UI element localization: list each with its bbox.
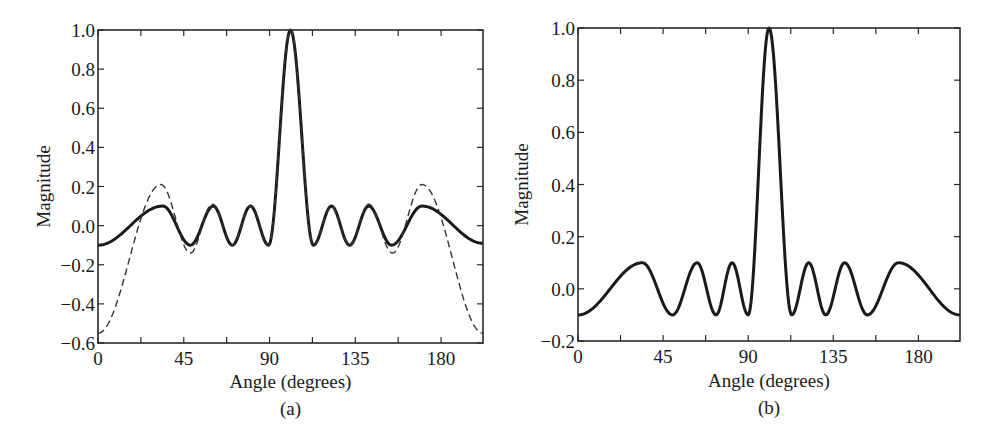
series-line-solid <box>578 28 960 315</box>
caption-b: (b) <box>758 397 780 419</box>
y-tick-label: 0.8 <box>551 70 575 91</box>
y-tick-label: 1.0 <box>551 18 575 39</box>
y-tick-label: 0.6 <box>551 122 575 143</box>
plot-frame <box>578 28 960 341</box>
x-axis-label-b: Angle (degrees) <box>708 370 830 392</box>
y-tick-label: 0.0 <box>551 279 575 300</box>
y-tick-label: 0.2 <box>551 227 575 248</box>
x-tick-label: 45 <box>654 346 673 367</box>
x-tick-label: 135 <box>819 346 848 367</box>
figure: 04590135180−0.6−0.4−0.20.00.20.40.60.81.… <box>0 0 1002 441</box>
plot-b-series <box>578 28 960 315</box>
x-tick-label: 180 <box>904 346 933 367</box>
plot-b-axes: 04590135180−0.20.00.20.40.60.81.0 <box>541 18 960 367</box>
y-tick-label: −0.2 <box>541 331 575 352</box>
x-tick-label: 90 <box>739 346 758 367</box>
chart-panel-b: 04590135180−0.20.00.20.40.60.81.0 Angle … <box>0 0 1002 441</box>
y-axis-label-b: Magnitude <box>511 143 532 225</box>
y-tick-label: 0.4 <box>551 175 575 196</box>
